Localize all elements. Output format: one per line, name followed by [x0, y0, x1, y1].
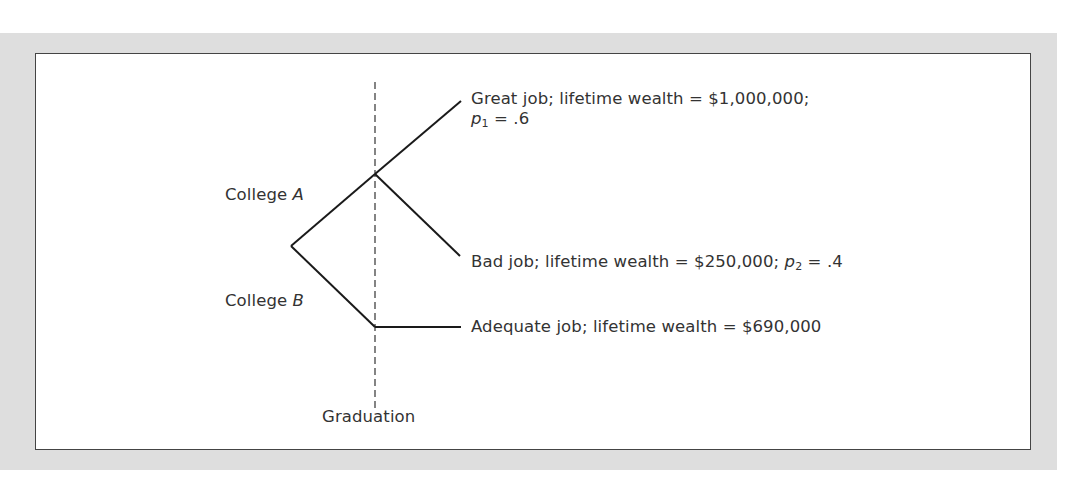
outcome-adequate-job: Adequate job; lifetime wealth = $690,000	[471, 317, 821, 337]
adequate-job-text: Adequate job; lifetime wealth = $690,000	[471, 317, 821, 336]
graduation-text: Graduation	[322, 407, 415, 426]
p1-var: p	[471, 109, 482, 128]
branch-great-job	[375, 101, 461, 174]
college-a-prefix: College	[225, 185, 293, 204]
college-a-var: A	[293, 185, 304, 204]
bad-job-text: Bad job; lifetime wealth = $250,000;	[471, 252, 785, 271]
decision-tree-lines	[0, 0, 1073, 480]
label-graduation: Graduation	[322, 407, 415, 427]
p1-value: = .6	[489, 109, 530, 128]
outcome-bad-job: Bad job; lifetime wealth = $250,000; p2 …	[471, 252, 843, 277]
branch-bad-job	[375, 174, 460, 256]
p1-sub: 1	[482, 117, 489, 130]
great-job-text: Great job; lifetime wealth = $1,000,000;	[471, 89, 809, 108]
outcome-great-job-probability: p1 = .6	[471, 109, 529, 134]
college-b-prefix: College	[225, 291, 293, 310]
outcome-great-job: Great job; lifetime wealth = $1,000,000;	[471, 89, 809, 109]
label-college-a: College A	[225, 185, 304, 205]
branch-college-b	[291, 246, 375, 327]
p2-var: p	[785, 252, 796, 271]
college-b-var: B	[293, 291, 304, 310]
label-college-b: College B	[225, 291, 304, 311]
p2-value: = .4	[802, 252, 843, 271]
